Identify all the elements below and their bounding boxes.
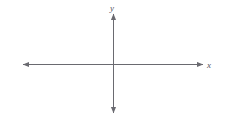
y-axis-label: y <box>109 3 114 13</box>
x-axis-label: x <box>206 60 211 70</box>
coordinate-plane-figure: y x <box>0 0 237 135</box>
axes-svg: y x <box>0 0 237 135</box>
